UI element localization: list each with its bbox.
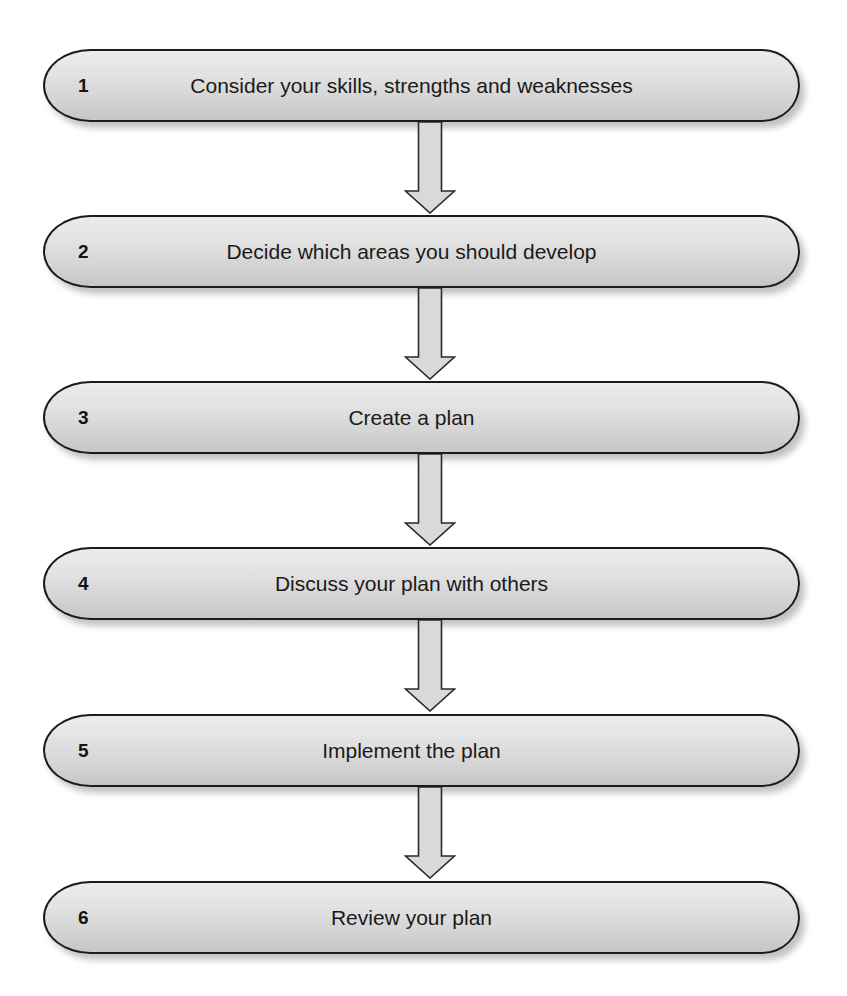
down-arrow-icon <box>404 787 456 879</box>
step-label: Review your plan <box>25 883 798 952</box>
flowchart: 1 Consider your skills, strengths and we… <box>0 0 847 996</box>
step-label: Implement the plan <box>25 716 798 785</box>
down-arrow-icon <box>404 620 456 712</box>
down-arrow-icon <box>404 288 456 380</box>
step-label: Consider your skills, strengths and weak… <box>25 51 798 120</box>
step-label: Create a plan <box>25 383 798 452</box>
step-box-3: 3 Create a plan <box>43 381 800 454</box>
down-arrow-icon <box>404 122 456 214</box>
step-box-4: 4 Discuss your plan with others <box>43 547 800 620</box>
step-box-5: 5 Implement the plan <box>43 714 800 787</box>
down-arrow-icon <box>404 454 456 546</box>
step-box-1: 1 Consider your skills, strengths and we… <box>43 49 800 122</box>
step-box-2: 2 Decide which areas you should develop <box>43 215 800 288</box>
step-label: Discuss your plan with others <box>25 549 798 618</box>
step-box-6: 6 Review your plan <box>43 881 800 954</box>
step-label: Decide which areas you should develop <box>25 217 798 286</box>
